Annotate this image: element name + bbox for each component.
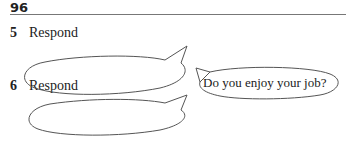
response-bubble-5[interactable] [25,46,187,94]
prompt-bubble-text: Do you enjoy your job? [203,75,326,91]
response-bubble-6[interactable] [29,95,187,135]
